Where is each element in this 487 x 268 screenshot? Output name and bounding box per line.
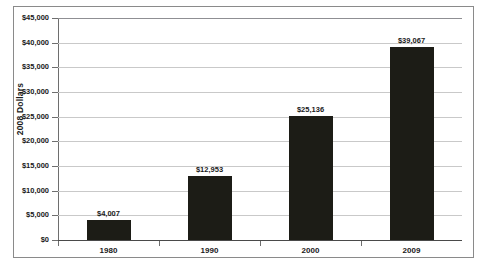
y-axis-tick-mark [52,43,58,44]
bar-value-label: $12,953 [170,165,250,174]
bar-value-label: $4,007 [69,209,149,218]
y-axis-tick-label: $10,000 [5,186,49,195]
y-axis-tick-mark [52,67,58,68]
y-axis-tick-mark [52,191,58,192]
y-axis-tick-mark [52,166,58,167]
bar [188,176,232,240]
y-axis-tick-mark [52,141,58,142]
y-axis-tick-label: $35,000 [5,62,49,71]
y-axis-tick-label: $5,000 [5,210,49,219]
y-axis-tick-label: $15,000 [5,161,49,170]
bar [390,47,434,240]
y-axis-tick-mark [52,92,58,93]
y-axis-tick-labels: $0$5,000$10,000$15,000$20,000$25,000$30,… [0,0,49,268]
x-axis-category-label: 2000 [271,246,351,255]
y-axis-tick-label: $0 [5,235,49,244]
bar [87,220,131,240]
gridline [58,18,462,19]
y-axis-tick-label: $20,000 [5,136,49,145]
x-axis-category-label: 1980 [69,246,149,255]
bar-chart: 2008 Dollars $0$5,000$10,000$15,000$20,0… [0,0,487,268]
x-axis-tick-mark [260,241,261,246]
bar-value-label: $39,067 [372,36,452,45]
x-axis-tick-mark [159,241,160,246]
y-axis-tick-label: $30,000 [5,87,49,96]
y-axis-tick-label: $45,000 [5,13,49,22]
x-axis-category-label: 1990 [170,246,250,255]
y-axis-tick-mark [52,117,58,118]
bar [289,116,333,240]
y-axis-tick-mark [52,18,58,19]
y-axis-tick-label: $40,000 [5,38,49,47]
y-axis-tick-label: $25,000 [5,112,49,121]
y-axis-tick-mark [52,215,58,216]
bar-value-label: $25,136 [271,105,351,114]
x-axis-category-label: 2009 [372,246,452,255]
x-axis-origin-tick-mark [58,241,59,246]
x-axis-tick-mark [361,241,362,246]
